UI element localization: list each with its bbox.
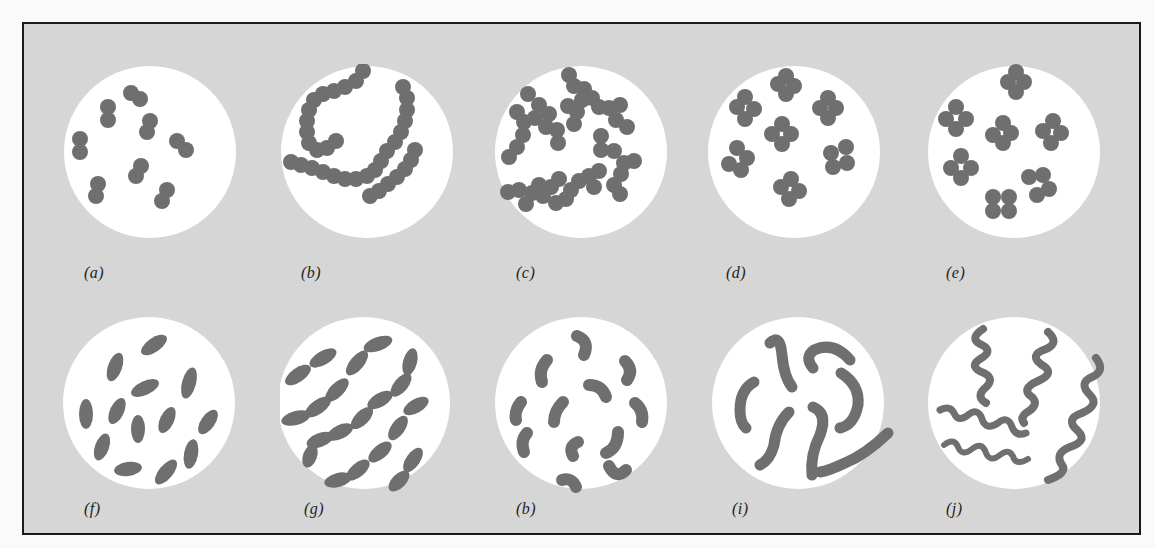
spirochete-icon bbox=[928, 315, 1128, 515]
diplococci-icon bbox=[64, 64, 264, 264]
panel-label-i: (i) bbox=[732, 500, 749, 518]
bacilli-icon bbox=[62, 315, 262, 515]
panel-label-g: (g) bbox=[304, 500, 324, 518]
vibrio-icon bbox=[494, 315, 694, 515]
panel-label-h: (b) bbox=[516, 500, 536, 518]
panel-label-b: (b) bbox=[301, 264, 321, 282]
spirilla-icon bbox=[710, 315, 910, 515]
panel-j: (j) bbox=[928, 315, 1128, 545]
panel-label-f: (f) bbox=[84, 500, 101, 518]
panel-b: (b) bbox=[279, 64, 479, 294]
figure-frame: (a) (b) bbox=[22, 22, 1141, 535]
panel-i: (i) bbox=[710, 315, 910, 545]
streptococci-icon bbox=[279, 64, 479, 264]
panel-c: (c) bbox=[494, 64, 694, 294]
panel-label-j: (j) bbox=[946, 500, 963, 518]
panel-h: (b) bbox=[494, 315, 694, 545]
sarcinae-icon bbox=[928, 64, 1128, 264]
panel-e: (e) bbox=[928, 64, 1128, 294]
staphylococci-icon bbox=[494, 64, 694, 264]
panel-label-d: (d) bbox=[726, 264, 746, 282]
panel-label-c: (c) bbox=[516, 264, 535, 282]
panel-label-e: (e) bbox=[946, 264, 965, 282]
streptobacilli-icon bbox=[280, 315, 480, 515]
panel-f: (f) bbox=[62, 315, 262, 545]
panel-a: (a) bbox=[64, 64, 264, 294]
tetrad-icon bbox=[708, 64, 908, 264]
panel-d: (d) bbox=[708, 64, 908, 294]
panel-g: (g) bbox=[280, 315, 480, 545]
panel-label-a: (a) bbox=[84, 264, 104, 282]
